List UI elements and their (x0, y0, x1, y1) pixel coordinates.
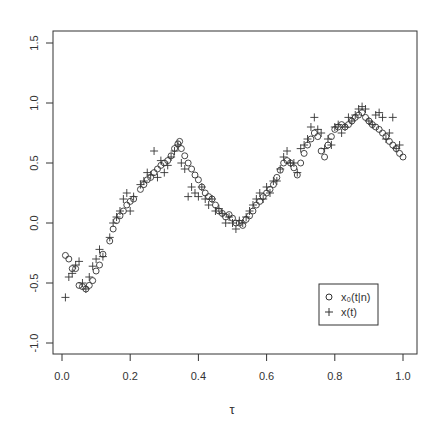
legend-label-x0: x₀(t|n) (341, 291, 370, 303)
y-tick-label: 0.0 (28, 215, 40, 230)
scatter-plot: -1.0-0.50.00.51.01.5 0.00.20.40.60.81.0 … (0, 0, 441, 422)
x-tick-label: 0.0 (54, 370, 69, 382)
y-tick-label: 1.5 (28, 35, 40, 50)
y-tick-label: -0.5 (28, 274, 40, 293)
x-tick-label: 0.6 (259, 370, 274, 382)
y-tick-label: -1.0 (28, 334, 40, 353)
legend: x₀(t|n) x(t) (319, 284, 378, 325)
legend-label-x: x(t) (341, 306, 357, 318)
y-axis: -1.0-0.50.00.51.01.5 (28, 35, 53, 352)
data-points (61, 103, 406, 302)
y-tick-label: 0.5 (28, 155, 40, 170)
x-tick-label: 0.2 (123, 370, 138, 382)
x-axis-label: τ (229, 402, 235, 417)
x-tick-label: 0.4 (191, 370, 206, 382)
x-axis: 0.00.20.40.60.81.0 (54, 354, 410, 382)
x-tick-label: 1.0 (395, 370, 410, 382)
y-tick-label: 1.0 (28, 95, 40, 110)
x-tick-label: 0.8 (327, 370, 342, 382)
